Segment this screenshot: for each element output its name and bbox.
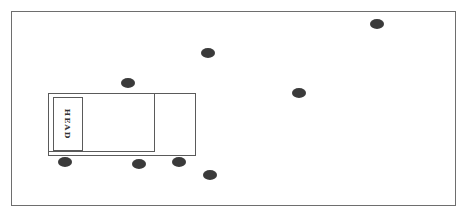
- seat: [203, 170, 217, 180]
- seat: [58, 157, 72, 167]
- seat: [201, 48, 215, 58]
- seat: [172, 157, 186, 167]
- seat: [292, 88, 306, 98]
- head-section: HEAD: [53, 97, 83, 151]
- seat: [370, 19, 384, 29]
- seat: [121, 78, 135, 88]
- seat: [132, 159, 146, 169]
- head-label: HEAD: [63, 109, 73, 140]
